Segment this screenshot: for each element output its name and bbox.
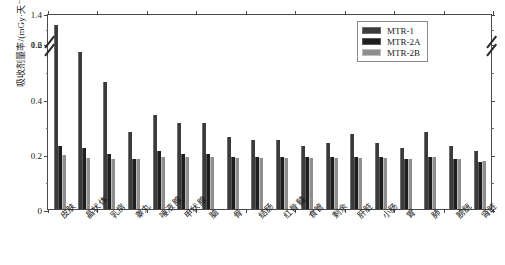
legend: MTR-1 MTR-2A MTR-2B: [357, 21, 428, 62]
legend-swatch-mtr-1: [362, 27, 381, 34]
bar-group: [128, 132, 142, 209]
bar-group: [153, 115, 167, 209]
bar: [259, 158, 263, 209]
bar-group: [474, 151, 488, 209]
bar-group: [424, 132, 438, 209]
y-axis-tick: [491, 101, 495, 102]
y-axis-minor-tick: [46, 30, 49, 31]
bar-group: [350, 134, 364, 209]
y-axis-tick: [44, 156, 48, 157]
x-axis-tick: [97, 11, 98, 15]
bar-group: [78, 52, 92, 209]
y-axis-minor-tick: [46, 183, 49, 184]
bar-group: [400, 148, 414, 209]
bar: [383, 158, 387, 209]
x-axis-tick: [493, 11, 494, 15]
bar: [62, 155, 66, 209]
bar-group: [103, 82, 117, 209]
legend-entry: MTR-2B: [362, 47, 421, 58]
y-axis-minor-tick: [491, 30, 494, 31]
bar-group: [251, 140, 265, 209]
bar: [86, 158, 90, 209]
y-axis-minor-tick: [491, 73, 494, 74]
y-axis-minor-tick: [491, 183, 494, 184]
x-axis-tick: [345, 11, 346, 15]
bar: [457, 159, 461, 209]
bar: [334, 158, 338, 209]
legend-label-mtr-2b: MTR-2B: [387, 48, 420, 58]
legend-entry: MTR-2A: [362, 36, 421, 47]
x-axis-tick-labels: 皮肤晶状体乳房睾丸唾液腺甲状腺脑骨结肠红骨髓食管剩余肝脏小肠胃肺膀胱肾脏: [47, 212, 492, 264]
bar-group: [326, 143, 340, 209]
bar: [111, 159, 115, 209]
bar-group: [449, 146, 463, 209]
bar-group: [375, 143, 389, 209]
x-axis-tick: [246, 11, 247, 15]
x-axis-tick: [196, 11, 197, 15]
legend-label-mtr-1: MTR-1: [387, 26, 414, 36]
legend-entry: MTR-1: [362, 25, 421, 36]
y-axis-tick: [44, 101, 48, 102]
legend-swatch-mtr-2b: [362, 49, 381, 56]
bar: [482, 161, 486, 209]
y-tick-label: 0.2: [31, 151, 42, 161]
bar: [235, 158, 239, 209]
y-axis-tick: [491, 156, 495, 157]
y-tick-label: 1.2: [31, 40, 42, 50]
bar: [210, 157, 214, 209]
y-axis-title: 吸收剂量率/(mGy·天⁻¹): [14, 0, 27, 131]
bar: [408, 159, 412, 209]
x-axis-tick: [394, 11, 395, 15]
bar: [432, 157, 436, 209]
bar: [309, 158, 313, 209]
y-axis-tick: [44, 15, 48, 16]
legend-label-mtr-2a: MTR-2A: [387, 37, 421, 47]
bar-group: [54, 25, 68, 209]
bar: [161, 157, 165, 209]
chart-figure: 吸收剂量率/(mGy·天⁻¹) 00.20.40.61.21.4 皮肤晶状体乳房…: [0, 0, 505, 265]
bar: [136, 159, 140, 209]
y-axis-minor-tick: [46, 128, 49, 129]
bar: [185, 157, 189, 209]
legend-swatch-mtr-2a: [362, 38, 381, 45]
y-axis-tick: [491, 15, 495, 16]
x-axis-tick: [295, 11, 296, 15]
bar-group: [227, 137, 241, 209]
y-tick-label: 0.4: [31, 96, 42, 106]
bar: [358, 158, 362, 209]
y-tick-label: 0: [38, 206, 43, 216]
y-axis-minor-tick: [46, 73, 49, 74]
x-axis-tick: [444, 11, 445, 15]
y-tick-label: 1.4: [31, 10, 42, 20]
y-axis-minor-tick: [491, 128, 494, 129]
x-axis-tick: [147, 11, 148, 15]
x-axis-tick: [48, 11, 49, 15]
bar-group: [276, 140, 290, 209]
bar: [284, 158, 288, 209]
